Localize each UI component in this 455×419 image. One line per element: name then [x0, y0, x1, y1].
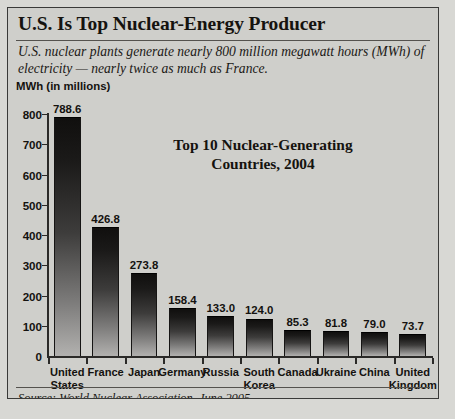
chart-title: Top 10 Nuclear-Generating Countries, 200…: [138, 135, 388, 173]
subtitle-deck: U.S. nuclear plants generate nearly 800 …: [18, 44, 430, 77]
x-axis-label-line: France: [87, 366, 123, 379]
bar-value-label: 158.4: [168, 294, 197, 306]
y-tick-label: 500: [12, 198, 42, 211]
x-tick-mark: [163, 358, 165, 364]
bar: [207, 316, 234, 356]
x-axis-label-line: Germany: [158, 366, 206, 379]
y-tick-mark: [42, 144, 47, 145]
title-divider: [16, 40, 430, 41]
x-tick-mark: [278, 358, 280, 364]
y-tick-mark: [42, 235, 47, 236]
x-axis-label-line: States: [50, 379, 85, 392]
bar-value-label: 81.8: [325, 317, 347, 329]
x-axis-label-line: China: [359, 366, 390, 379]
y-tick-label: 100: [12, 319, 42, 332]
x-axis-label-line: United: [50, 366, 85, 379]
x-tick-mark: [202, 358, 204, 364]
y-tick-label: 400: [12, 229, 42, 242]
y-tick-mark: [42, 296, 47, 297]
y-tick-label: 0: [12, 350, 42, 363]
bar-value-label: 788.6: [53, 103, 82, 115]
bar: [361, 332, 388, 356]
bar-value-label: 73.7: [402, 320, 424, 332]
bar: [169, 308, 196, 356]
y-axis-ticks: 8007006005004003002001000: [8, 80, 42, 385]
x-tick-mark: [86, 358, 88, 364]
y-tick-mark: [42, 265, 47, 266]
x-axis-label: Canada: [278, 366, 318, 379]
source-note: Source: World Nuclear Association, June …: [18, 391, 250, 399]
x-tick-mark: [317, 358, 319, 364]
footer-divider: [16, 387, 430, 388]
figure-panel: U.S. Is Top Nuclear-Energy Producer U.S.…: [7, 7, 439, 399]
x-axis-label: Germany: [158, 366, 206, 379]
x-tick-mark: [125, 358, 127, 364]
y-tick-mark: [42, 114, 47, 115]
bar-value-label: 124.0: [245, 304, 274, 316]
bar: [284, 330, 311, 356]
bar: [399, 334, 426, 356]
x-axis-label: Japan: [128, 366, 160, 379]
bar-value-label: 85.3: [287, 316, 309, 328]
x-axis-label-line: Russia: [203, 366, 239, 379]
y-tick-label: 800: [12, 108, 42, 121]
y-tick-mark: [42, 205, 47, 206]
y-tick-label: 600: [12, 168, 42, 181]
bar: [246, 319, 273, 357]
x-axis-label-line: South: [243, 366, 274, 379]
chart-title-line-1: Top 10 Nuclear-Generating: [138, 135, 388, 154]
x-axis-label: China: [359, 366, 390, 379]
x-axis-label: Russia: [203, 366, 239, 379]
x-axis-label: Ukraine: [316, 366, 357, 379]
x-tick-mark: [240, 358, 242, 364]
x-axis-label-line: Korea: [243, 379, 274, 392]
bar-value-label: 426.8: [91, 213, 120, 225]
y-tick-label: 700: [12, 138, 42, 151]
x-tick-mark: [355, 358, 357, 364]
bar-chart: MWh (in millions) 8007006005004003002001…: [8, 80, 439, 385]
y-tick-mark: [42, 326, 47, 327]
x-tick-mark: [432, 358, 434, 364]
bar: [323, 331, 350, 356]
bar: [54, 117, 81, 356]
x-axis-label-line: Canada: [278, 366, 318, 379]
y-tick-label: 200: [12, 289, 42, 302]
x-axis-label-line: Japan: [128, 366, 160, 379]
chart-title-line-2: Countries, 2004: [138, 154, 388, 173]
bar: [131, 273, 158, 356]
bar-value-label: 79.0: [363, 318, 385, 330]
x-axis-label-line: United: [389, 366, 437, 379]
bar-value-label: 273.8: [130, 259, 159, 271]
x-axis-label: France: [87, 366, 123, 379]
x-tick-mark: [48, 358, 50, 364]
bar-value-label: 133.0: [207, 302, 236, 314]
bar: [92, 227, 119, 356]
x-axis-label-line: Ukraine: [316, 366, 357, 379]
y-tick-mark: [42, 175, 47, 176]
page-title: U.S. Is Top Nuclear-Energy Producer: [18, 13, 428, 35]
x-axis-label-line: Kingdom: [389, 379, 437, 392]
x-tick-mark: [394, 358, 396, 364]
y-tick-label: 300: [12, 259, 42, 272]
